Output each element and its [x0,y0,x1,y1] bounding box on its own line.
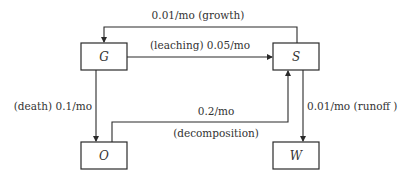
leaching-label: (leaching) 0.05/mo [150,39,250,51]
edge-growth: 0.01/mo (growth) [104,9,297,43]
death-label: (death) 0.1/mo [14,100,92,112]
node-W: W [273,142,319,169]
node-O: O [81,142,127,169]
node-S-label: S [292,50,300,64]
node-G: G [81,43,127,70]
decomposition-rate-label: 0.2/mo [198,105,235,117]
node-W-label: W [290,149,304,163]
edge-runoff: 0.01/mo (runoff ) [303,70,397,141]
node-S: S [273,43,319,70]
edge-leaching: (leaching) 0.05/mo [127,39,272,57]
growth-label: 0.01/mo (growth) [152,9,245,21]
edge-death: (death) 0.1/mo [14,70,96,141]
runoff-label: 0.01/mo (runoff ) [307,100,397,112]
compartment-flow-diagram: 0.01/mo (growth) (leaching) 0.05/mo (dea… [0,0,406,179]
edge-decomposition: 0.2/mo (decomposition) [112,71,288,142]
node-G-label: G [99,50,109,64]
node-O-label: O [99,149,109,163]
decomposition-name-label: (decomposition) [173,127,259,139]
